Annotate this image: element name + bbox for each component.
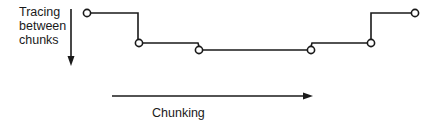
node-icon (83, 9, 90, 16)
tracing-between-chunks-label: Tracing between chunks (19, 5, 69, 47)
label-line: between (19, 19, 69, 33)
node-icon (195, 46, 202, 53)
chunking-arrow-icon (112, 93, 313, 100)
label-line: Tracing (19, 5, 69, 19)
node-icon (135, 39, 142, 46)
node-icon (411, 9, 418, 16)
label-line: chunks (19, 33, 69, 47)
node-icon (307, 46, 314, 53)
chunking-diagram: Tracing between chunks Chunking (0, 0, 435, 128)
chunking-label: Chunking (152, 106, 205, 120)
node-icon (367, 39, 374, 46)
